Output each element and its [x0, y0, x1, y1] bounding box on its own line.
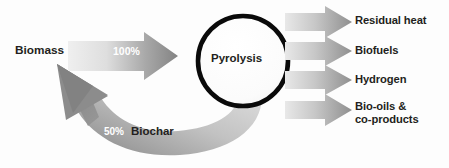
- output-arrow-hydrogen: [285, 65, 352, 95]
- recycle-flow-percent: 50%: [104, 126, 124, 138]
- output-label-biooils: Bio-oils & co-products: [355, 100, 419, 126]
- pyrolysis-flow-diagram: Biomass 100% Pyrolysis 50% Biochar Resid…: [0, 0, 449, 168]
- output-label-biofuels: Biofuels: [355, 44, 398, 57]
- input-flow-percent: 100%: [113, 45, 140, 57]
- output-label-biooils-line2: co-products: [355, 113, 419, 126]
- recycle-label-biochar: Biochar: [131, 125, 174, 139]
- output-arrow-biofuels: [285, 36, 352, 66]
- output-label-biooils-line1: Bio-oils &: [355, 100, 419, 113]
- input-label-biomass: Biomass: [15, 44, 64, 58]
- output-arrow-biooils: [285, 94, 352, 126]
- output-arrow-residual-heat: [285, 6, 352, 38]
- output-label-residual-heat: Residual heat: [355, 14, 426, 27]
- output-label-hydrogen: Hydrogen: [355, 73, 406, 86]
- process-label-pyrolysis: Pyrolysis: [211, 52, 262, 66]
